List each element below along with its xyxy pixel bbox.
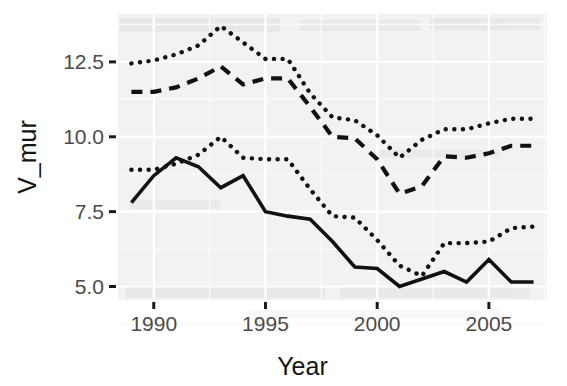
y-tick-label: 10.0 (63, 125, 104, 148)
y-axis-title: V_mur (13, 120, 41, 194)
x-axis-title: Year (277, 352, 328, 380)
y-tick-label: 7.5 (75, 200, 104, 223)
y-axis-tickmarks (109, 62, 116, 287)
x-tick-label: 2005 (466, 312, 513, 335)
x-axis-tickmarks (154, 302, 489, 309)
x-tick-label: 1990 (130, 312, 177, 335)
chart-figure: 1990199520002005 5.07.510.012.5 Year V_m… (0, 0, 567, 386)
x-tick-label: 1995 (242, 312, 289, 335)
y-axis-tick-labels: 5.07.510.012.5 (63, 50, 104, 298)
y-tick-label: 5.0 (75, 275, 104, 298)
y-tick-label: 12.5 (63, 50, 104, 73)
line-chart: 1990199520002005 5.07.510.012.5 Year V_m… (0, 0, 567, 386)
x-tick-label: 2000 (354, 312, 401, 335)
